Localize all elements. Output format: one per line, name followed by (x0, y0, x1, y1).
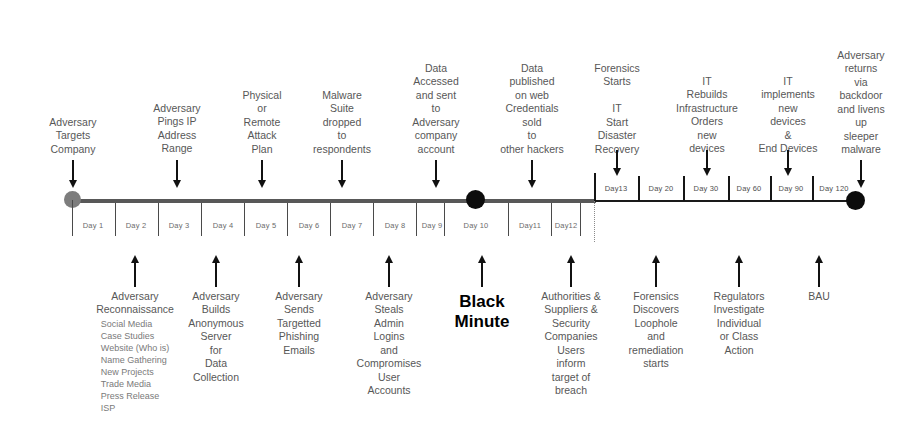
event-label-line: company (388, 129, 484, 142)
event-label-line: Emails (253, 344, 345, 357)
axis-tick (158, 203, 159, 236)
event-label-line: Targetted (253, 317, 345, 330)
event-label-line: Adversary (815, 49, 907, 62)
event-sub-list: Social MediaCase StudiesWebsite (Who is)… (101, 318, 169, 414)
axis-tick (72, 200, 73, 236)
arrow-up-adversary-builds-anonymous-server (210, 255, 222, 287)
event-sub-list-item: Press Release (101, 390, 169, 402)
event-label-line: starts (606, 357, 706, 370)
event-label-line: Targets (27, 129, 119, 142)
event-label-line: Anonymous (168, 317, 264, 330)
event-label-line: Sends (253, 303, 345, 316)
day-label: Day 6 (299, 221, 320, 230)
arrow-down-forensics-starts (611, 150, 623, 176)
axis-tick (373, 203, 374, 236)
day-label: Day 8 (385, 221, 406, 230)
timeline-black-minute-node (466, 190, 485, 209)
event-label-line: Steals (339, 303, 439, 316)
event-label-line: Address (129, 129, 225, 142)
day-label: Day 9 (422, 221, 443, 230)
event-label-line: Phishing (253, 330, 345, 343)
arrow-up-forensics-discovers-loophole (650, 255, 662, 287)
event-label-data-published-on-web: Datapublishedon webCredentialssoldtoothe… (480, 62, 584, 156)
event-sub-list-item: New Projects (101, 366, 169, 378)
day-label: Day 3 (169, 221, 190, 230)
day-label-upper: Day 120 (819, 184, 848, 193)
event-label-line: Individual (691, 317, 787, 330)
event-label-line: Accounts (339, 384, 439, 397)
day-label-upper: Day 20 (649, 184, 674, 193)
axis-tick (580, 203, 581, 236)
event-label-line: or Class (691, 330, 787, 343)
event-label-line: Server (168, 330, 264, 343)
event-label-data-accessed-and-sent: DataAccessedand senttoAdversarycompanyac… (388, 62, 484, 156)
arrow-up-adversary-steals-admin-logins (383, 255, 395, 287)
day-label-upper: Day 30 (694, 184, 719, 193)
event-label-line: User (339, 371, 439, 384)
event-label-line: published (480, 75, 584, 88)
event-label-black-minute: BlackMinute (434, 292, 530, 332)
event-label-line: to (290, 129, 394, 142)
axis-tick (115, 203, 116, 236)
event-label-line: Data (388, 62, 484, 75)
event-label-line: backdoor (815, 89, 907, 102)
axis-tick (551, 203, 552, 236)
event-label-line: to (480, 129, 584, 142)
event-label-line: BAU (784, 290, 854, 303)
event-label-malware-suite-dropped: MalwareSuitedroppedtorespondents (290, 89, 394, 156)
event-label-line: malware (815, 143, 907, 156)
event-label-line: Regulators (691, 290, 787, 303)
event-label-line: sold (480, 116, 584, 129)
axis-tick-upper (812, 176, 814, 201)
event-label-line: Range (129, 143, 225, 156)
event-label-line: Credentials (480, 102, 584, 115)
event-label-line: returns (815, 62, 907, 75)
event-label-line: Company (27, 143, 119, 156)
day-label: Day 10 (464, 221, 489, 230)
axis-tick (508, 203, 509, 236)
event-label-line: and sent (388, 89, 484, 102)
axis-tick (201, 203, 202, 236)
event-label-line: Data (168, 357, 264, 370)
event-label-line: Malware (290, 89, 394, 102)
axis-tick (330, 203, 331, 236)
event-label-line: Adversary (388, 116, 484, 129)
event-label-line: Adversary (27, 116, 119, 129)
event-label-adversary-steals-admin-logins: AdversaryStealsAdminLoginsandCompromises… (339, 290, 439, 398)
event-label-line: IT (573, 102, 661, 115)
event-label-line: Compromises (339, 357, 439, 370)
day-label-upper: Day 60 (737, 184, 762, 193)
event-label-line: Investigate (691, 303, 787, 316)
arrow-up-black-minute (476, 255, 488, 287)
timeline-diagram: AdversaryTargetsCompany AdversaryPings I… (0, 0, 919, 446)
arrow-down-it-implements-new-devices (782, 150, 794, 176)
axis-tick-upper (770, 176, 772, 201)
arrow-up-bau (813, 255, 825, 287)
event-sub-list-item: Case Studies (101, 330, 169, 342)
event-label-line: breach (519, 384, 623, 397)
event-label-bau: BAU (784, 290, 854, 303)
event-label-adversary-builds-anonymous-server: AdversaryBuildsAnonymousServerforDataCol… (168, 290, 264, 384)
event-label-regulators-investigate: RegulatorsInvestigateIndividualor ClassA… (691, 290, 787, 357)
day-label: Day 1 (83, 221, 104, 230)
event-label-line: Starts (573, 75, 661, 88)
axis-tick (244, 203, 245, 236)
event-label-line: and livens (815, 102, 907, 115)
event-label-line: Black (434, 292, 530, 312)
axis-tick-upper (638, 176, 640, 201)
day-label-upper: Day13 (605, 184, 628, 193)
day-label: Day 4 (213, 221, 234, 230)
day-label: Day 5 (256, 221, 277, 230)
arrow-down-malware-suite-dropped (336, 160, 348, 188)
arrow-down-data-accessed-and-sent (430, 160, 442, 188)
event-label-line: target of (519, 371, 623, 384)
event-label-line: Suite (290, 102, 394, 115)
event-label-line: Adversary (168, 290, 264, 303)
event-label-adversary-sends-targetted-phishing-emails: AdversarySendsTargettedPhishingEmails (253, 290, 345, 357)
event-sub-list-item: Social Media (101, 318, 169, 330)
event-label-line: via (815, 75, 907, 88)
arrow-up-regulators-investigate (733, 255, 745, 287)
arrow-down-data-published-on-web (526, 160, 538, 188)
axis-phase-divider (594, 196, 595, 242)
event-label-line: up (815, 116, 907, 129)
